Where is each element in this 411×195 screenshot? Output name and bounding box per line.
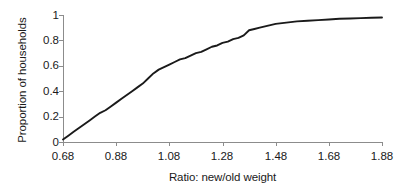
plot-area xyxy=(0,0,411,195)
x-axis-ticks xyxy=(64,142,383,146)
axis-lines xyxy=(63,15,382,142)
chart-container: Proportion of households 1 0.8 0.6 0.4 0… xyxy=(0,0,411,195)
cdf-line-series xyxy=(63,18,382,140)
y-axis-ticks xyxy=(59,16,63,143)
